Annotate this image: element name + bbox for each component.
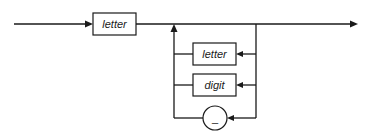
loop-underscore-label: _ [211, 112, 219, 124]
option-letter-arrow-icon [236, 51, 243, 57]
loop-digit-label: digit [204, 79, 225, 91]
main-letter-node: letter [93, 13, 136, 35]
entry-arrow-icon [85, 21, 93, 28]
loop-letter-label: letter [202, 48, 228, 60]
exit-arrow-icon [350, 21, 358, 28]
syntax-diagram: letter letter digit _ [0, 0, 365, 139]
option-underscore-arrow-icon [227, 115, 234, 121]
loop-return-arrow-icon [171, 24, 178, 32]
option-digit-arrow-icon [236, 82, 243, 88]
loop-underscore-node: _ [203, 106, 227, 130]
loop-letter-node: letter [193, 43, 236, 65]
main-letter-label: letter [102, 18, 128, 30]
loop-digit-node: digit [193, 74, 236, 96]
